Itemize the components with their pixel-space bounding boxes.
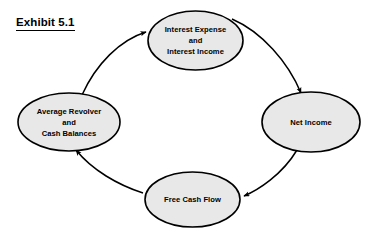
node-net-income[interactable] — [262, 92, 360, 152]
edge-revolver-to-interest — [82, 32, 146, 95]
edge-net-income-to-free-cash-flow — [244, 150, 297, 196]
diagram-canvas: Exhibit 5.1 Interest Expense and Interes… — [0, 0, 365, 239]
node-average-revolver-and-cash-balances[interactable] — [18, 93, 120, 151]
cycle-diagram — [0, 0, 365, 239]
edge-interest-to-net-income — [232, 19, 301, 93]
node-free-cash-flow[interactable] — [145, 172, 240, 227]
node-interest-expense-and-income[interactable] — [148, 11, 243, 70]
edge-free-cash-flow-to-revolver — [76, 150, 143, 193]
